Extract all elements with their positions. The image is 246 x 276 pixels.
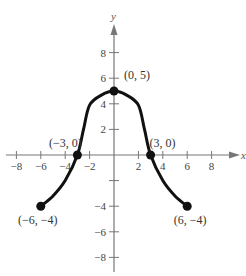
y-tick-label: 8 [101,47,107,59]
point-label: (0, 5) [124,68,150,82]
x-tick-label: 4 [160,160,166,172]
point-marker [110,87,119,96]
point-label: (3, 0) [150,136,176,150]
x-axis-label: x [240,149,246,161]
x-tick-label: 8 [209,160,215,172]
x-tick-label: −8 [11,160,23,172]
x-tick-label: −6 [35,160,47,172]
y-tick-label: −4 [94,200,106,212]
point-label: (−6, −4) [18,213,58,227]
chart-container: x y −8−6−4−22468 −8−6−42468 (−6, −4)(−3,… [0,0,246,276]
point-marker [73,151,82,160]
point-marker [183,202,192,211]
y-tick-label: 4 [101,98,107,110]
y-axis-label: y [110,10,116,22]
y-tick-label: −8 [94,251,106,263]
point-label: (−3, 0) [49,136,82,150]
point-marker [36,202,45,211]
x-axis-arrow-icon [229,152,240,159]
x-tick-label: −2 [84,160,96,172]
graph: x y −8−6−4−22468 −8−6−42468 (−6, −4)(−3,… [0,0,246,276]
y-tick-label: −6 [94,226,106,238]
y-tick-label: 2 [101,123,107,135]
x-tick-label: 2 [136,160,142,172]
point-marker [146,151,155,160]
point-label: (6, −4) [174,213,207,227]
x-tick-label: 6 [184,160,190,172]
x-ticks: −8−6−4−22468 [11,151,215,172]
y-axis-arrow-icon [111,24,118,35]
y-tick-label: 6 [101,72,107,84]
